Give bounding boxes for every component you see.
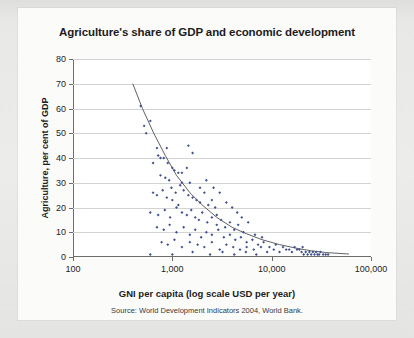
- x-tick-mark: [371, 257, 372, 261]
- scatter-point: [173, 238, 176, 241]
- y-tick-label: 10: [56, 227, 66, 237]
- scatter-point: [162, 228, 165, 231]
- scatter-point: [210, 216, 213, 219]
- scatter-point: [162, 157, 165, 160]
- scatter-point: [194, 216, 197, 219]
- scatter-point: [272, 248, 275, 251]
- x-axis-title: GNI per capita (log scale USD per year): [18, 288, 396, 299]
- y-tick-label: 70: [56, 79, 66, 89]
- source-note: Source: World Development Indicators 200…: [18, 306, 396, 315]
- scatter-point: [210, 199, 213, 202]
- x-tick-label: 1,000: [161, 264, 184, 274]
- scatter-point: [182, 189, 185, 192]
- chart-title: Agriculture's share of GDP and economic …: [18, 26, 396, 38]
- scatter-point: [196, 243, 199, 246]
- scatter-point: [168, 179, 171, 182]
- y-axis-title: Agriculture, per cent of GDP: [40, 97, 50, 218]
- scatter-point: [161, 189, 164, 192]
- scatter-point: [244, 251, 247, 254]
- scatter-point: [187, 144, 190, 147]
- scatter-point: [152, 162, 155, 165]
- scatter-point: [318, 253, 321, 256]
- scatter-point: [200, 236, 203, 239]
- scatter-point: [157, 213, 160, 216]
- scatter-point: [169, 216, 172, 219]
- scatter-point: [290, 251, 293, 254]
- scatter-point: [261, 236, 264, 239]
- scatter-point: [160, 241, 163, 244]
- scatter-point: [165, 196, 168, 199]
- scatter-point: [143, 124, 146, 127]
- y-tick-label: 20: [56, 203, 66, 213]
- scatter-point: [206, 221, 209, 224]
- scatter-point: [207, 204, 210, 207]
- scatter-point: [225, 243, 228, 246]
- scatter-point: [209, 253, 212, 256]
- scatter-point: [254, 233, 257, 236]
- scatter-point: [181, 246, 184, 249]
- scatter-point: [149, 119, 152, 122]
- scatter-point: [240, 216, 243, 219]
- scatter-point: [282, 246, 285, 249]
- scatter-point: [168, 223, 171, 226]
- x-tick-label: 100,000: [355, 264, 388, 274]
- scatter-point: [313, 253, 316, 256]
- scatter-point: [210, 241, 213, 244]
- scatter-point: [231, 206, 234, 209]
- y-tick-label: 30: [56, 178, 66, 188]
- scatter-point: [262, 241, 265, 244]
- x-tick-label: 100: [65, 264, 80, 274]
- scatter-point: [194, 228, 197, 231]
- scatter-point: [188, 241, 191, 244]
- scatter-point: [232, 246, 235, 249]
- y-tick-label: 80: [56, 54, 66, 64]
- scatter-point: [177, 204, 180, 207]
- scatter-point: [247, 221, 250, 224]
- scatter-point: [190, 209, 193, 212]
- x-tick-mark: [73, 257, 74, 261]
- scatter-point: [225, 201, 228, 204]
- scatter-point: [259, 246, 262, 249]
- scatter-point: [157, 154, 160, 157]
- scatter-point: [322, 253, 325, 256]
- y-tick-label: 50: [56, 128, 66, 138]
- scatter-point: [215, 223, 218, 226]
- scatter-point: [203, 246, 206, 249]
- scatter-point: [187, 194, 190, 197]
- scatter-point: [205, 179, 208, 182]
- scatter-point: [155, 226, 158, 229]
- scatter-point: [159, 174, 162, 177]
- scatter-point: [177, 171, 180, 174]
- scatter-point: [191, 152, 194, 155]
- scatter-point: [278, 251, 281, 254]
- trendline-path: [133, 84, 349, 254]
- scatter-point: [302, 253, 305, 256]
- scatter-point: [164, 176, 167, 179]
- scatter-point: [215, 213, 218, 216]
- scatter-point: [224, 226, 227, 229]
- plot-area: 010203040506070801001,00010,000100,000: [73, 59, 371, 257]
- scatter-point: [166, 243, 169, 246]
- scatter-point: [181, 171, 184, 174]
- scatter-point: [170, 186, 173, 189]
- scatter-point: [191, 251, 194, 254]
- scatter-point: [195, 199, 198, 202]
- scatter-point: [171, 253, 174, 256]
- scatter-point: [155, 147, 158, 150]
- x-tick-mark: [272, 257, 273, 261]
- scatter-point: [304, 251, 307, 254]
- scatter-point: [221, 251, 224, 254]
- y-tick-label: 40: [56, 153, 66, 163]
- scatter-point: [149, 211, 152, 214]
- scatter-point: [255, 253, 258, 256]
- scatter-point: [217, 228, 220, 231]
- scatter-point: [163, 209, 166, 212]
- scatter-point: [268, 246, 271, 249]
- scatter-point: [185, 166, 188, 169]
- scatter-point: [310, 253, 313, 256]
- scatter-point: [145, 132, 148, 135]
- scatter-point: [203, 191, 206, 194]
- scatter-point: [285, 248, 288, 251]
- scatter-point: [212, 186, 215, 189]
- scatter-point: [252, 248, 255, 251]
